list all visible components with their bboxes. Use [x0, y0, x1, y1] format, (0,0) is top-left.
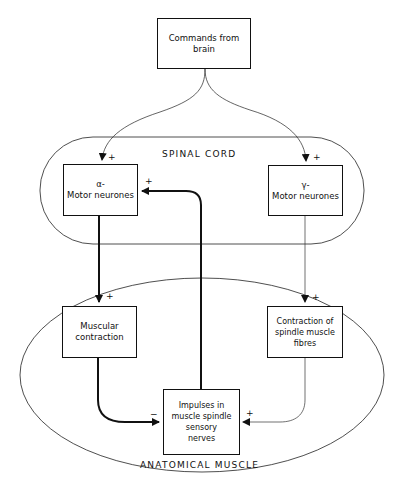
node-label: sensory: [172, 422, 232, 433]
spinal-cord-label: SPINAL CORD: [162, 149, 236, 159]
sign-gamma-spindle: +: [312, 293, 320, 302]
node-label: Impulses in: [172, 400, 232, 411]
node-label: contraction: [75, 332, 123, 343]
node-alpha-motor-neurones: α-Motor neurones: [63, 164, 138, 216]
sign-commands-gamma: +: [313, 153, 321, 162]
node-muscular-contraction: Muscularcontraction: [62, 306, 137, 358]
sign-alpha-muscular: +: [106, 292, 114, 301]
node-label: Muscular: [75, 321, 123, 332]
node-commands-from-brain: Commands frombrain: [157, 18, 251, 69]
anatomical-muscle-label: ANATOMICAL MUSCLE: [140, 460, 259, 470]
sign-impulses-alpha: +: [145, 177, 153, 186]
edge-commands-gamma: [205, 69, 306, 161]
node-label: γ-: [272, 180, 339, 191]
node-contraction-spindle-fibres: Contraction ofspindle musclefibres: [267, 306, 343, 358]
node-label: nerves: [172, 433, 232, 444]
sign-commands-alpha: +: [108, 153, 116, 162]
node-label: brain: [169, 44, 240, 55]
node-label: fibres: [275, 338, 335, 349]
edge-commands-alpha: [102, 69, 205, 160]
node-label: Motor neurones: [272, 191, 339, 202]
edge-impulses-alpha: [142, 191, 201, 389]
node-label: muscle spindle: [172, 411, 232, 422]
node-label: Motor neurones: [67, 190, 134, 201]
node-gamma-motor-neurones: γ-Motor neurones: [268, 165, 343, 216]
node-impulses-spindle-sensory-nerves: Impulses inmuscle spindlesensorynerves: [163, 389, 240, 455]
sign-spindle-impulses: +: [246, 409, 254, 418]
node-label: spindle muscle: [275, 327, 335, 338]
node-label: Contraction of: [275, 316, 335, 327]
node-label: α-: [67, 179, 134, 190]
sign-muscular-impulses: −: [150, 410, 158, 419]
node-label: Commands from: [169, 33, 240, 44]
